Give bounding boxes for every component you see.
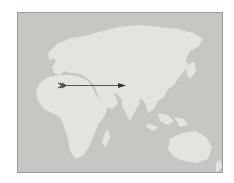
new-zealand [216, 159, 222, 173]
japan [186, 61, 196, 79]
australia [168, 131, 212, 163]
madagascar [102, 129, 110, 147]
map-graphic [18, 13, 223, 173]
southeast-asia-islands [146, 113, 188, 131]
world-map [17, 12, 223, 173]
indian-subcontinent [122, 95, 140, 121]
